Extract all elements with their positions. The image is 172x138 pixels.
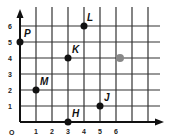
point-label-H: H <box>72 108 80 119</box>
x-tick-labels: O 1 2 3 4 5 6 <box>9 128 118 136</box>
y-axis-arrow-icon <box>17 9 24 18</box>
point-label-J: J <box>104 92 110 103</box>
point-unlabeled-gray <box>116 54 124 62</box>
point-L: L <box>81 12 94 30</box>
x-tick-5: 5 <box>98 128 102 135</box>
point-J: J <box>97 92 111 110</box>
y-tick-2: 2 <box>8 87 12 94</box>
x-tick-2: 2 <box>50 128 54 135</box>
x-tick-1: 1 <box>34 128 38 135</box>
point-label-L: L <box>87 12 93 23</box>
x-tick-6: 6 <box>114 128 118 135</box>
y-tick-5: 5 <box>8 39 12 46</box>
point-label-M: M <box>40 76 49 87</box>
point-K: K <box>65 44 81 62</box>
x-tick-3: 3 <box>66 128 70 135</box>
y-tick-3: 3 <box>8 71 12 78</box>
point-P: P <box>17 28 32 46</box>
y-tick-labels: 1 2 3 4 5 6 <box>8 23 12 110</box>
y-tick-4: 4 <box>8 55 12 62</box>
point-label-P: P <box>24 28 31 39</box>
y-tick-6: 6 <box>8 23 12 30</box>
point-label-K: K <box>72 44 80 55</box>
y-tick-1: 1 <box>8 103 12 110</box>
x-tick-4: 4 <box>82 128 86 135</box>
point-M: M <box>33 76 50 94</box>
coordinate-grid: O 1 2 3 4 5 6 1 2 3 4 5 6 P L K M H J <box>0 0 172 138</box>
grid-lines <box>20 7 160 122</box>
origin-label: O <box>9 129 15 136</box>
x-axis-arrow-icon <box>155 119 164 126</box>
